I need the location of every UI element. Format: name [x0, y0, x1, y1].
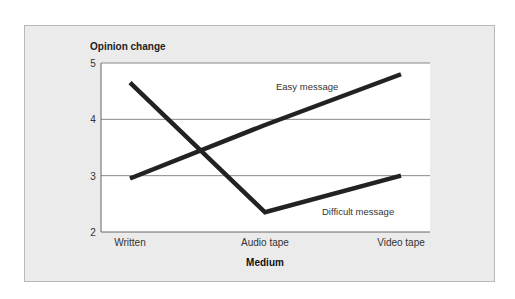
y-tick-labels: 2345	[90, 58, 96, 238]
line-chart: 2345 WrittenAudio tapeVideo tape Opinion…	[0, 0, 515, 299]
y-tick-label: 4	[90, 114, 96, 125]
y-tick-label: 3	[90, 171, 96, 182]
x-tick-labels: WrittenAudio tapeVideo tape	[114, 237, 425, 248]
y-tick-label: 5	[90, 58, 96, 69]
x-tick-label: Video tape	[377, 237, 425, 248]
series-label-easy: Easy message	[276, 81, 338, 92]
x-axis-title: Medium	[246, 257, 284, 268]
y-axis-title: Opinion change	[90, 41, 166, 52]
series-label-difficult: Difficult message	[322, 206, 394, 217]
x-tick-label: Written	[114, 237, 146, 248]
x-tick-label: Audio tape	[241, 237, 289, 248]
y-tick-label: 2	[90, 227, 96, 238]
